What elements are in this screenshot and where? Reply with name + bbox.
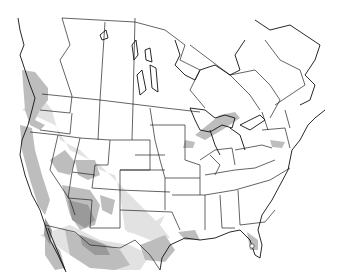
- point-marker: [250, 244, 254, 248]
- range-map: [0, 0, 340, 277]
- north-america-map-svg: [0, 0, 340, 277]
